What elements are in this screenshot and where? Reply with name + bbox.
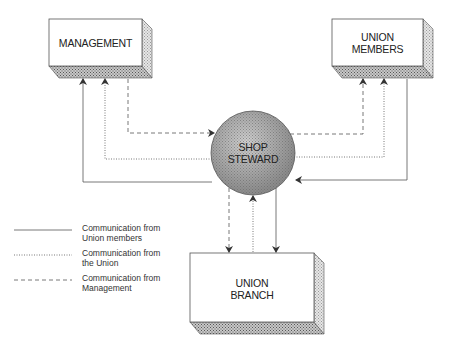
management-label-text: MANAGEMENT [59,37,132,49]
edge-dashed-to-steward [128,79,214,133]
edge-solid-to-steward [296,79,407,180]
legend-dashed-line2: Management [82,283,160,293]
edge-dotted-to-management [105,79,212,159]
union-members-label-line2: MEMBERS [332,43,423,55]
union-members-label-line1: UNION [332,31,423,43]
legend-dashed-line1: Communication from [82,273,160,283]
union-members-connections [290,79,407,180]
management-connections [83,79,214,182]
union-branch-connections [229,188,276,252]
legend-item-dotted: Communication from the Union [82,248,160,268]
union-members-label: UNION MEMBERS [332,31,423,55]
legend-dotted-line1: Communication from [82,248,160,258]
edge-dotted-to-union-members [294,79,384,157]
edge-solid-to-management [83,79,212,182]
legend-item-dashed: Communication from Management [82,273,160,293]
shop-steward-label: SHOP STEWARD [213,141,293,165]
legend-solid-line1: Communication from [82,223,160,233]
shop-steward-label-line1: SHOP [213,141,293,153]
legend-solid-line2: Union members [82,233,160,243]
legend-lines [14,230,72,280]
union-branch-label-line1: UNION [190,277,314,289]
union-branch-label: UNION BRANCH [190,277,314,301]
shop-steward-label-line2: STEWARD [213,153,293,165]
edge-dashed-to-union-members [290,79,363,134]
legend-item-solid: Communication from Union members [82,223,160,243]
union-branch-label-line2: BRANCH [190,289,314,301]
legend-dotted-line2: the Union [82,258,160,268]
management-label: MANAGEMENT [49,37,142,49]
